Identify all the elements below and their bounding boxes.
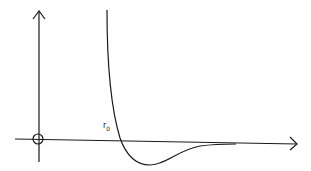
diagram-canvas bbox=[0, 0, 311, 171]
x-axis bbox=[15, 139, 297, 144]
r0-label-sub: 0 bbox=[106, 125, 110, 132]
r0-label: r0 bbox=[103, 122, 110, 132]
